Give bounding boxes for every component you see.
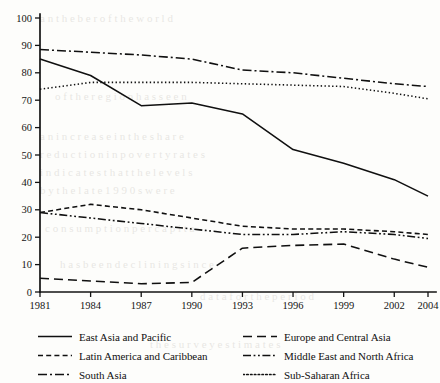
x-tick-label: 1990 xyxy=(181,300,202,311)
y-tick-label: 40 xyxy=(22,177,33,188)
x-tick-label: 2002 xyxy=(384,300,405,311)
legend-label: South Asia xyxy=(79,369,126,381)
y-tick-label: 90 xyxy=(22,40,33,51)
chart-legend: East Asia and PacificEurope and Central … xyxy=(38,327,430,383)
legend-entry: Middle East and North Africa xyxy=(243,350,430,362)
y-tick-label: 100 xyxy=(16,13,32,24)
legend-label: Middle East and North Africa xyxy=(284,350,413,362)
legend-label: East Asia and Pacific xyxy=(79,331,171,343)
series-line-europe-and-central-asia xyxy=(40,244,428,284)
chart-canvas: 0102030405060708090100 19811984198719901… xyxy=(0,0,440,383)
dash-dot-line-swatch xyxy=(38,370,72,379)
x-tick-label: 1981 xyxy=(30,300,51,311)
legend-entry: East Asia and Pacific xyxy=(38,331,243,343)
x-tick-label: 2004 xyxy=(418,300,440,311)
x-tick-label: 1984 xyxy=(80,300,102,311)
x-tick-label: 1987 xyxy=(131,300,152,311)
legend-label: Sub-Saharan Africa xyxy=(284,369,370,381)
y-tick-label: 20 xyxy=(22,232,33,243)
long-dash-line-swatch xyxy=(243,332,277,341)
legend-label: Europe and Central Asia xyxy=(284,331,391,343)
dash-dot-dot-line-swatch xyxy=(243,351,277,360)
x-tick-label: 1993 xyxy=(232,300,253,311)
x-tick-label: 1999 xyxy=(333,300,354,311)
solid-line-swatch xyxy=(38,332,72,341)
dotted-line-swatch xyxy=(243,370,277,379)
legend-entry: Sub-Saharan Africa xyxy=(243,369,430,381)
y-tick-label: 80 xyxy=(22,67,33,78)
legend-label: Latin America and Caribbean xyxy=(79,350,207,362)
y-tick-label: 70 xyxy=(22,95,33,106)
y-tick-label: 50 xyxy=(22,150,33,161)
short-dash-line-swatch xyxy=(38,351,72,360)
y-tick-label: 60 xyxy=(22,122,33,133)
legend-entry: South Asia xyxy=(38,369,243,381)
x-axis-tick-labels: 198119841987199019931996199920022004 xyxy=(30,300,440,311)
legend-entry: Europe and Central Asia xyxy=(243,331,430,343)
series-line-east-asia-and-pacific xyxy=(40,59,428,196)
series-line-sub-saharan-africa xyxy=(40,82,428,98)
y-tick-label: 0 xyxy=(27,287,32,298)
series-lines-layer xyxy=(40,50,428,284)
series-line-middle-east-and-north-africa xyxy=(40,213,428,239)
legend-entry: Latin America and Caribbean xyxy=(38,350,243,362)
x-tick-label: 1996 xyxy=(283,300,304,311)
poverty-headcount-line-chart: 0102030405060708090100 19811984198719901… xyxy=(0,0,440,383)
y-tick-label: 10 xyxy=(22,259,33,270)
y-tick-label: 30 xyxy=(22,204,33,215)
y-axis-tick-labels: 0102030405060708090100 xyxy=(16,13,32,298)
